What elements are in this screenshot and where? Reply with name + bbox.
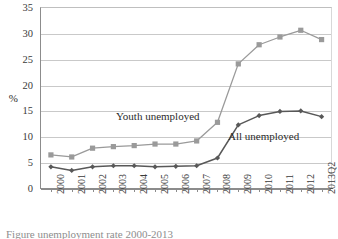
- x-tick-label: 2011: [284, 174, 295, 194]
- x-tick-label: 2010: [263, 174, 274, 194]
- x-tick-mark: [217, 188, 218, 192]
- x-tick-mark: [51, 188, 52, 192]
- x-tick-label: 2009: [242, 174, 253, 194]
- clipped-caption: Figure unemployment rate 2000-2013: [6, 229, 336, 239]
- x-tick-mark: [176, 188, 177, 192]
- x-tick-mark: [259, 188, 260, 192]
- x-tick-label: 2007: [201, 174, 212, 194]
- x-tick-mark: [155, 188, 156, 192]
- x-tick-mark: [197, 188, 198, 192]
- x-tick-mark: [322, 188, 323, 192]
- x-tick-label: 2003: [117, 174, 128, 194]
- x-tick-mark: [93, 188, 94, 192]
- x-tick-mark: [280, 188, 281, 192]
- x-tick-label: 2000: [55, 174, 66, 194]
- x-tick-label: 2012: [305, 174, 316, 194]
- x-tick-label: 2002: [97, 174, 108, 194]
- x-tick-mark: [238, 188, 239, 192]
- x-tick-mark: [113, 188, 114, 192]
- x-tick-mark: [134, 188, 135, 192]
- x-tick-mark: [72, 188, 73, 192]
- x-tick-mark: [301, 188, 302, 192]
- x-tick-label: 2004: [138, 174, 149, 194]
- x-tick-label: 2008: [221, 174, 232, 194]
- unemployment-line-chart: % 35302520151050 20002001200220032004200…: [0, 0, 338, 239]
- x-tick-label: 2001: [76, 174, 87, 194]
- series-label-all: All unemployed: [228, 130, 299, 142]
- x-tick-label: 2006: [180, 174, 191, 194]
- caption-text: Figure unemployment rate 2000-2013: [6, 229, 336, 239]
- x-tick-label: 2005: [159, 174, 170, 194]
- x-tick-label: 2013Q2: [326, 162, 337, 194]
- series-label-youth: Youth unemployed: [116, 110, 200, 122]
